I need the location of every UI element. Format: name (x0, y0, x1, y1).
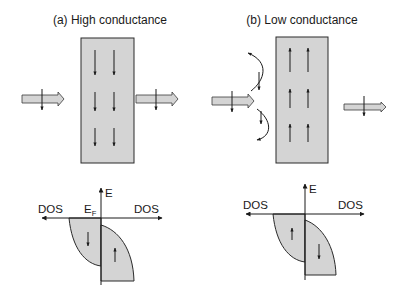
panel-a: (a) High conductance (22, 13, 178, 285)
incoming-electron-arrow-b (212, 91, 254, 112)
dos-band-left-a (69, 218, 101, 266)
panel-a-title: (a) High conductance (53, 13, 167, 27)
dos-left-label: DOS (38, 203, 63, 215)
dos-diagram-a: E DOS DOS EF (38, 187, 162, 285)
panel-b-title: (b) Low conductance (246, 13, 358, 27)
outgoing-electron-arrow-b (344, 96, 386, 116)
energy-axis-label: E (105, 187, 113, 199)
dos-diagram-b: E DOS DOS (243, 183, 364, 280)
dos-band-right-b (305, 220, 336, 275)
ferromagnet-layer-b (276, 37, 328, 163)
incoming-electron-arrow-a (22, 89, 64, 110)
dos-band-left-b (273, 214, 305, 262)
panel-b: (b) Low conductance (212, 13, 386, 280)
outgoing-electron-arrow-a (136, 89, 178, 110)
spin-valve-diagram: (a) High conductance (0, 0, 405, 294)
dos-band-right-a (101, 225, 134, 281)
dos-right-label: DOS (134, 203, 159, 215)
ferromagnet-layer-a (81, 38, 134, 163)
dos-left-label: DOS (243, 199, 268, 211)
fermi-level-label: EF (84, 203, 97, 218)
energy-axis-label: E (309, 183, 317, 195)
reflected-electron-arrows (248, 53, 269, 140)
dos-right-label: DOS (338, 199, 363, 211)
